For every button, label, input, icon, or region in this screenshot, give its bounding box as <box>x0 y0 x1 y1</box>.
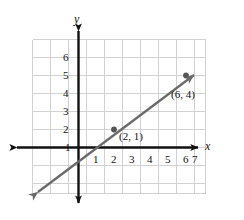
y-tick-label-3: 3 <box>63 106 69 117</box>
x-tick-label-1: 1 <box>93 154 99 165</box>
y-tick-label-2: 2 <box>63 124 69 135</box>
x-tick-label-5: 5 <box>165 154 171 165</box>
coordinate-plane-graph: 6 5 4 3 2 1 1 2 3 4 5 6 7 y x (2, 1) (6,… <box>0 0 244 220</box>
y-tick-label-1: 1 <box>65 142 71 153</box>
x-tick-label-2: 2 <box>111 154 117 165</box>
x-tick-label-6: 6 <box>183 154 189 165</box>
y-axis-label: y <box>74 13 79 25</box>
graph-canvas <box>0 0 244 220</box>
data-point-2-1 <box>111 127 117 133</box>
x-tick-label-7: 7 <box>192 154 198 165</box>
x-tick-label-3: 3 <box>129 154 135 165</box>
y-tick-label-5: 5 <box>63 70 69 81</box>
x-axis-label: x <box>205 140 210 152</box>
point-label-6-4: (6, 4) <box>171 89 195 100</box>
point-label-2-1: (2, 1) <box>119 131 143 142</box>
x-tick-label-4: 4 <box>147 154 153 165</box>
data-point-6-4 <box>183 73 189 79</box>
y-tick-label-6: 6 <box>63 52 69 63</box>
y-tick-label-4: 4 <box>63 88 69 99</box>
grid-lines <box>33 40 206 194</box>
